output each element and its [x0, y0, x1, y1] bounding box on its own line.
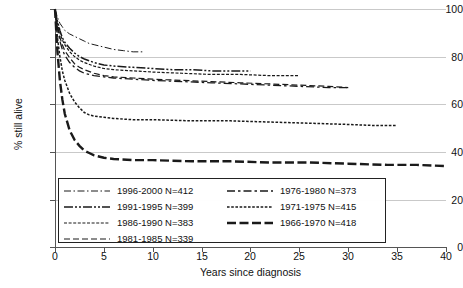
- legend-line-swatch-icon: [64, 201, 110, 213]
- legend-line-swatch-icon: [64, 233, 110, 245]
- survival-chart-figure: 100 80 60 40 20 0 0 5 10 15 20 25 30 35 …: [0, 0, 463, 288]
- legend-line-swatch-icon: [227, 201, 273, 213]
- legend-item-label: 1996-2000 N=412: [117, 186, 193, 196]
- curve-1976-1980: [55, 9, 348, 88]
- legend-line-swatch-icon: [227, 217, 273, 229]
- legend-item[interactable]: 1986-1990 N=383: [64, 215, 193, 230]
- legend-item[interactable]: 1981-1985 N=339: [64, 231, 193, 246]
- legend-item-label: 1981-1985 N=339: [117, 234, 193, 244]
- curve-1966-1970: [55, 9, 446, 166]
- chart-legend: 1996-2000 N=4121991-1995 N=3991986-1990 …: [58, 178, 386, 243]
- curve-1991-1995: [55, 9, 251, 71]
- legend-item-label: 1966-1970 N=418: [280, 218, 356, 228]
- legend-item[interactable]: 1991-1995 N=399: [64, 199, 193, 214]
- legend-line-swatch-icon: [64, 185, 110, 197]
- legend-item[interactable]: 1976-1980 N=373: [227, 183, 356, 198]
- legend-line-swatch-icon: [227, 185, 273, 197]
- legend-item-label: 1976-1980 N=373: [280, 186, 356, 196]
- legend-item[interactable]: 1996-2000 N=412: [64, 183, 193, 198]
- legend-item-label: 1991-1995 N=399: [117, 202, 193, 212]
- legend-item[interactable]: 1971-1975 N=415: [227, 199, 356, 214]
- legend-line-swatch-icon: [64, 217, 110, 229]
- legend-item[interactable]: 1966-1970 N=418: [227, 215, 356, 230]
- legend-item-label: 1971-1975 N=415: [280, 202, 356, 212]
- curve-1986-1990: [55, 9, 299, 76]
- legend-item-label: 1986-1990 N=383: [117, 218, 193, 228]
- curve-1971-1975: [55, 9, 397, 126]
